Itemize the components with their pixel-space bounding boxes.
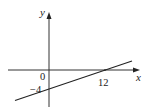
y-axis-arrow-icon — [47, 12, 52, 19]
x-axis-label: x — [135, 71, 141, 83]
origin-label: 0 — [40, 71, 45, 82]
coordinate-graph: y x 0 12 −4 — [0, 0, 145, 109]
x-intercept-label: 12 — [98, 77, 109, 88]
y-intercept-label: −4 — [30, 84, 42, 95]
graph-svg: y x 0 12 −4 — [0, 0, 145, 109]
y-axis-label: y — [39, 6, 45, 18]
